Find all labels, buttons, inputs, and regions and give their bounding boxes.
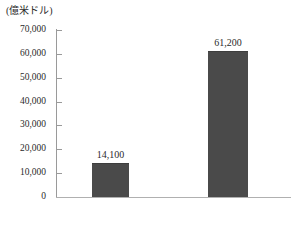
bar-value-label: 61,200	[214, 36, 242, 49]
y-axis-tick-label: 70,000	[20, 23, 46, 36]
y-axis-tick-label: 20,000	[20, 142, 46, 155]
y-axis-tick-label: 60,000	[20, 47, 46, 60]
bar-group: 14,1002016	[92, 30, 129, 197]
y-axis-tick-label: 50,000	[20, 71, 46, 84]
y-axis-tick-label: 10,000	[20, 166, 46, 179]
bar[interactable]	[208, 51, 248, 197]
x-axis-line	[56, 197, 291, 198]
bar[interactable]	[92, 163, 129, 197]
y-axis-tick-label: 0	[41, 190, 46, 203]
bar-chart-figure: (億米ドル) 010,00020,00030,00040,00050,00060…	[0, 0, 297, 226]
bar-value-label: 14,100	[97, 148, 125, 161]
y-axis-tick-label: 30,000	[20, 118, 46, 131]
plot-area: 14,100201661,2002023（年）	[56, 30, 280, 197]
y-axis-tick-label: 40,000	[20, 95, 46, 108]
y-axis-unit-label: (億米ドル)	[6, 4, 53, 17]
bar-group: 61,2002023（年）	[208, 30, 248, 197]
